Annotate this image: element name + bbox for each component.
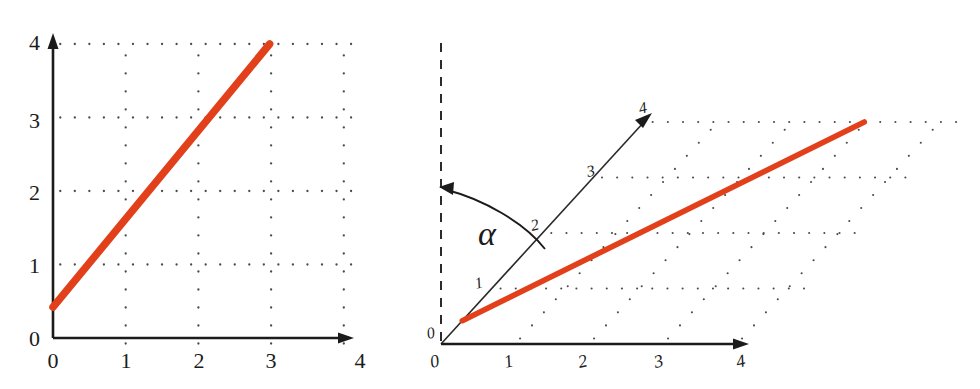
grid-dot	[581, 232, 583, 234]
grid-dot	[741, 337, 743, 339]
grid-dot	[343, 108, 345, 110]
grid-dot	[125, 90, 127, 92]
grid-dot	[614, 233, 616, 235]
grid-dot	[662, 181, 664, 183]
grid-dot	[707, 176, 709, 178]
grid-dot	[773, 287, 775, 289]
grid-dot	[335, 43, 337, 45]
grid-dot	[940, 121, 942, 123]
grid-dot	[343, 180, 345, 182]
grid-dot	[270, 270, 272, 272]
grid-dot	[616, 176, 618, 178]
grid-dot	[219, 263, 221, 265]
grid-dot	[712, 287, 714, 289]
oblique-x-tick-label-1: 1	[502, 350, 515, 372]
grid-dot	[270, 306, 272, 308]
grid-dot	[874, 176, 876, 178]
grid-dot	[343, 234, 345, 236]
grid-dot	[715, 285, 717, 287]
grid-dot	[846, 142, 848, 144]
grid-dot	[575, 287, 577, 289]
grid-dot	[343, 126, 345, 128]
grid-dot	[125, 108, 127, 110]
grid-dot	[146, 43, 148, 45]
grid-dot	[774, 220, 776, 222]
grid-dot	[789, 285, 791, 287]
grid-dot	[849, 121, 851, 123]
grid-dot	[343, 288, 345, 290]
grid-dot	[777, 298, 779, 300]
grid-dot	[125, 72, 127, 74]
grid-dot	[125, 234, 127, 236]
grid-dot	[565, 232, 567, 234]
grid-dot	[698, 142, 700, 144]
grid-dot	[519, 337, 521, 339]
grid-dot	[117, 190, 119, 192]
grid-dot	[676, 246, 678, 248]
grid-dot	[750, 246, 752, 248]
grid-dot	[270, 288, 272, 290]
grid-dot	[59, 263, 61, 265]
grid-dot	[621, 287, 623, 289]
grid-dot	[737, 176, 739, 178]
grid-dot	[732, 232, 734, 234]
grid-dot	[277, 116, 279, 118]
grid-dot	[197, 162, 199, 164]
grid-dot	[904, 176, 906, 178]
grid-dot	[605, 324, 607, 326]
grid-dot	[591, 287, 593, 289]
oblique-x-axis	[441, 339, 749, 350]
grid-dot	[74, 116, 76, 118]
grid-dot	[679, 324, 681, 326]
oblique-y-tick-label-0: 0	[425, 323, 437, 341]
grid-dot	[652, 121, 654, 123]
grid-dot	[125, 288, 127, 290]
grid-dot	[248, 43, 250, 45]
grid-dot	[682, 121, 684, 123]
grid-dot	[175, 43, 177, 45]
grid-dot	[788, 287, 790, 289]
grid-dot	[515, 287, 517, 289]
grid-dot	[697, 287, 699, 289]
grid-dot	[335, 190, 337, 192]
grid-dot	[641, 285, 643, 287]
grid-dot	[263, 263, 265, 265]
grid-dot	[727, 272, 729, 274]
grid-dot	[543, 311, 545, 313]
grid-dot	[197, 90, 199, 92]
oblique-x-tick-label-3: 3	[651, 350, 665, 372]
oblique-y-tick-label-1: 1	[473, 273, 485, 291]
grid-dot	[858, 129, 860, 131]
cartesian-data-line	[53, 44, 270, 307]
grid-dot	[667, 121, 669, 123]
grid-dot	[103, 43, 105, 45]
grid-dot	[270, 126, 272, 128]
grid-dot	[955, 121, 957, 123]
grid-dot	[197, 324, 199, 326]
oblique-plot-panel: α 0 1 2 3 4 0 1 2 3 4	[420, 0, 980, 389]
x-tick-label-2: 2	[194, 348, 205, 373]
y-tick-label-2: 2	[29, 180, 40, 205]
grid-dot	[125, 180, 127, 182]
oblique-x-tick-label-0: 0	[428, 350, 441, 372]
grid-dot	[125, 54, 127, 56]
grid-dot	[834, 155, 836, 157]
grid-dot	[884, 181, 886, 183]
grid-dot	[778, 232, 780, 234]
grid-dot	[248, 190, 250, 192]
grid-dot	[219, 116, 221, 118]
grid-dot	[828, 176, 830, 178]
grid-dot	[896, 168, 898, 170]
oblique-y-tick-label-3: 3	[584, 161, 597, 180]
oblique-grid	[500, 121, 958, 340]
grid-dot	[879, 121, 881, 123]
grid-dot	[662, 176, 664, 178]
grid-dot	[205, 43, 207, 45]
grid-dot	[593, 337, 595, 339]
grid-dot	[59, 43, 61, 45]
grid-dot	[651, 287, 653, 289]
grid-dot	[59, 116, 61, 118]
grid-dot	[717, 232, 719, 234]
grid-dot	[579, 272, 581, 274]
grid-dot	[803, 121, 805, 123]
